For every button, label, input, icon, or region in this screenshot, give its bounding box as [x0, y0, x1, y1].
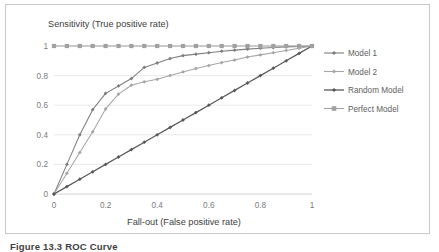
- series-random-model: [52, 44, 314, 196]
- x-tick-label: 0: [52, 201, 57, 210]
- x-tick-label: 0.8: [255, 201, 267, 210]
- legend-label: Random Model: [348, 86, 404, 95]
- y-tick-label: 0.8: [37, 72, 49, 81]
- x-tick-label: 0.4: [152, 201, 164, 210]
- chart-legend: Model 1Model 2Random ModelPerfect Model: [324, 49, 404, 114]
- y-axis-tick-labels: 00.20.40.60.81: [37, 42, 49, 199]
- y-tick-label: 0.6: [37, 101, 49, 110]
- series-layer: [52, 44, 314, 196]
- figure-container: 00.20.40.60.81 00.20.40.60.81 Model 1Mod…: [5, 4, 430, 234]
- legend-item-model-1[interactable]: Model 1: [324, 49, 378, 58]
- y-tick-label: 1: [43, 42, 48, 51]
- x-axis-tick-labels: 00.20.40.60.81: [52, 201, 315, 210]
- legend-item-model-2[interactable]: Model 2: [324, 68, 378, 77]
- figure-caption: Figure 13.3 ROC Curve: [10, 240, 430, 252]
- legend-label: Perfect Model: [348, 105, 399, 114]
- legend-item-perfect-model[interactable]: Perfect Model: [324, 105, 399, 114]
- y-tick-label: 0: [43, 190, 48, 199]
- legend-item-random-model[interactable]: Random Model: [324, 86, 404, 95]
- series-perfect-model: [52, 44, 314, 48]
- y-axis-title: Sensitivity (True positive rate): [48, 19, 169, 29]
- x-axis-title: Fall-out (False positive rate): [127, 217, 241, 227]
- y-tick-label: 0.4: [37, 131, 49, 140]
- x-tick-label: 0.2: [100, 201, 112, 210]
- legend-label: Model 1: [348, 49, 378, 58]
- y-tick-label: 0.2: [37, 160, 49, 169]
- legend-label: Model 2: [348, 68, 378, 77]
- roc-chart: 00.20.40.60.81 00.20.40.60.81 Model 1Mod…: [6, 5, 429, 233]
- x-tick-label: 1: [310, 201, 315, 210]
- x-tick-label: 0.6: [203, 201, 215, 210]
